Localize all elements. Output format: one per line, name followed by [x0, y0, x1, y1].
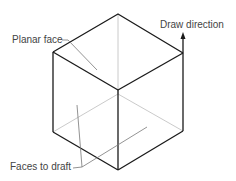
faces-to-draft-label: Faces to draft	[10, 161, 71, 173]
draw-direction-label: Draw direction	[160, 19, 224, 31]
planar-face-label: Planar face	[12, 34, 63, 46]
diagram-canvas: Planar face Draw direction Faces to draf…	[0, 0, 236, 181]
draw-direction-arrow	[181, 32, 186, 53]
leader-lines	[62, 40, 147, 168]
